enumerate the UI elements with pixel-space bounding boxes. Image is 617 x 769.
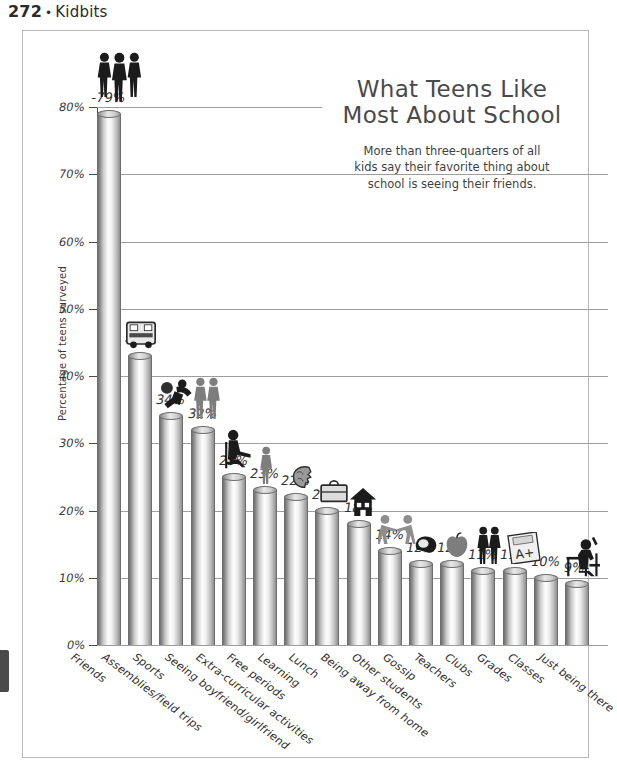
bar-cap <box>222 473 246 481</box>
bar: 14% <box>378 551 402 645</box>
student-at-desk-icon <box>563 534 607 578</box>
y-axis-tick-label: 0% <box>66 638 87 652</box>
bar: 22% <box>284 497 308 645</box>
y-axis-tick <box>89 242 97 243</box>
y-axis-tick-label: 70% <box>58 167 86 181</box>
header-separator: • <box>42 6 55 20</box>
y-axis-tick <box>89 511 97 512</box>
chart-title-line-1: What Teens Like <box>333 77 571 103</box>
gridline <box>97 107 322 108</box>
bar-cap <box>128 352 152 360</box>
gridline <box>97 242 608 243</box>
bar-cap <box>409 560 433 568</box>
book-title: Kidbits <box>55 3 107 21</box>
bar: 25% <box>222 477 246 645</box>
bar-cap <box>284 493 308 501</box>
student-reading-chair-icon <box>221 428 261 470</box>
bar: 43% <box>128 356 152 645</box>
lunchbox-icon <box>319 480 349 504</box>
bar-cap <box>253 486 277 494</box>
bar-cap <box>347 520 371 528</box>
bar: 11% <box>503 571 527 645</box>
y-axis-tick <box>89 309 97 310</box>
y-axis-tick-label: 40% <box>58 369 86 383</box>
bar-cap <box>378 547 402 555</box>
house-icon <box>349 487 377 517</box>
bar-cap <box>565 580 589 588</box>
bar: 12% <box>409 564 433 645</box>
gridline <box>97 309 608 310</box>
bar: 20% <box>315 511 339 646</box>
report-card-a-plus-icon: A+ <box>506 532 542 564</box>
bar-cap <box>97 110 121 118</box>
standing-person-icon <box>257 446 279 484</box>
gridline <box>97 174 608 175</box>
bar: 23% <box>253 490 277 645</box>
y-axis-tick <box>89 376 97 377</box>
bar: -79% <box>97 114 121 645</box>
y-axis-tick-label: 30% <box>58 436 86 450</box>
y-axis-tick <box>89 443 97 444</box>
two-people-icon <box>476 526 504 564</box>
bar-cap <box>191 426 215 434</box>
bar-cap <box>471 567 495 575</box>
y-axis-tick <box>89 645 97 646</box>
bar-cap <box>503 567 527 575</box>
page-number: 272 <box>8 2 42 21</box>
bar: 34% <box>159 416 183 645</box>
y-axis-tick <box>89 174 97 175</box>
couple-icon <box>191 377 227 423</box>
y-axis-tick-label: 50% <box>58 302 86 316</box>
school-bus-icon <box>124 319 158 349</box>
x-axis-label: Just being there <box>536 651 617 715</box>
bar: 10% <box>534 578 558 645</box>
bar-cap <box>315 507 339 515</box>
y-axis-tick-label: 60% <box>58 235 86 249</box>
bar: 11% <box>471 571 495 645</box>
plot-area: 0%10%20%30%40%50%60%70%80% -79%43%34%32%… <box>97 107 608 645</box>
bar-cap <box>440 560 464 568</box>
apple-icon <box>445 532 469 558</box>
bar: 18% <box>347 524 371 645</box>
bar-cap <box>534 574 558 582</box>
bar-cap <box>159 412 183 420</box>
bar: 9%- <box>565 584 589 645</box>
page-edge-tab <box>0 650 9 692</box>
telephone-icon <box>413 534 439 558</box>
y-axis-tick-label: 10% <box>58 571 86 585</box>
y-axis-tick-label: 20% <box>58 504 86 518</box>
y-axis-tick-label: 80% <box>58 100 86 114</box>
page-header: 272•Kidbits <box>8 2 108 21</box>
svg-text:A+: A+ <box>514 545 535 562</box>
y-axis-tick <box>89 578 97 579</box>
y-axis-tick <box>89 107 97 108</box>
three-teens-icon <box>91 52 147 104</box>
bar: 32% <box>191 430 215 645</box>
brain-head-icon <box>290 464 316 490</box>
gridline <box>97 645 608 646</box>
chart-frame: What Teens Like Most About School More t… <box>22 30 589 758</box>
y-axis-label: Percentage of teens surveyed <box>57 266 68 421</box>
bar: 12% <box>440 564 464 645</box>
